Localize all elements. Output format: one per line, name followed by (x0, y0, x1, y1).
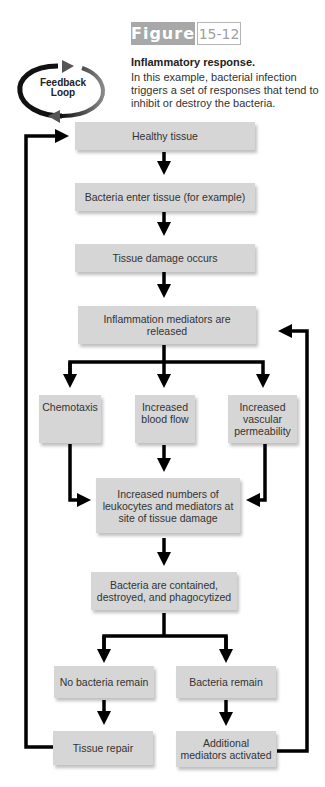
feedback-loop-line2: Loop (36, 88, 90, 98)
node-blood-flow: Increased blood flow (135, 395, 195, 443)
node-vascular-permeability: Increased vascular permeability (228, 395, 297, 443)
node-bacteria-remain: Bacteria remain (176, 666, 276, 698)
node-additional-mediators: Additional mediators activated (176, 731, 276, 767)
node-healthy-tissue: Healthy tissue (75, 122, 255, 150)
node-tissue-repair: Tissue repair (53, 731, 153, 765)
node-bacteria-contained: Bacteria are contained, destroyed, and p… (91, 572, 237, 610)
node-bacteria-enter: Bacteria enter tissue (for example) (75, 183, 255, 211)
node-mediators-released: Inflammation mediators are released (78, 306, 256, 344)
node-leukocytes: Increased numbers of leukocytes and medi… (96, 478, 240, 533)
node-tissue-damage: Tissue damage occurs (75, 244, 255, 272)
node-chemotaxis: Chemotaxis (39, 395, 101, 443)
feedback-loop-label: Feedback Loop (36, 78, 90, 98)
flow-arrows (0, 0, 325, 787)
node-no-bacteria: No bacteria remain (54, 666, 154, 698)
